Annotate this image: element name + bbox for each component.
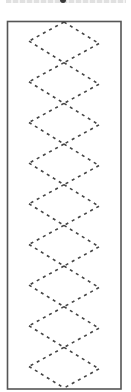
stitch-segment-a [29,326,64,348]
stitch-segment-b [64,185,99,207]
stitch-segment-b [64,307,99,329]
stitch-segment-b [64,103,99,125]
stitch-segment-a [29,122,64,144]
stitch-segment-b [64,288,99,307]
stitch-segment-a [29,347,64,366]
stitch-segment-a [29,307,64,326]
stitch-segment-b [64,369,99,388]
stitch-segment-a [29,41,64,63]
stitch-segment-b [64,22,99,44]
stitch-segment-a [29,63,64,82]
stitch-segment-b [64,225,99,247]
stitch-segment-a [29,266,64,285]
stitch-segment-b [64,247,99,266]
stitch-segment-b [64,166,99,185]
stitch-segment-a [29,204,64,226]
stitch-segment-a [29,185,64,204]
stitch-segment-a [29,225,64,244]
stitch-segment-a [29,366,64,388]
stitch-segment-a [29,244,64,266]
stitch-pattern-diagram [0,0,131,392]
stitch-segment-a [29,22,64,41]
stitch-segment-a [29,144,64,163]
stitch-segment-b [64,63,99,85]
stitch-segment-a [29,82,64,104]
stitch-lines [29,22,99,388]
stitch-segment-a [29,103,64,122]
stitch-segment-b [64,84,99,103]
stitch-segment-b [64,347,99,369]
stitch-segment-a [29,285,64,307]
stitch-segment-b [64,44,99,63]
stitch-segment-a [29,163,64,185]
stitch-segment-b [64,144,99,166]
stitch-segment-b [64,125,99,144]
stitch-segment-b [64,266,99,288]
stitch-segment-b [64,206,99,225]
pattern-frame [8,22,122,390]
stitch-segment-b [64,328,99,347]
